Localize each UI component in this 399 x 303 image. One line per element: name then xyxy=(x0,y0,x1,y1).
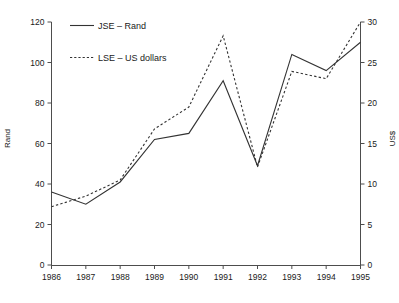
left-axis-tick-label: 40 xyxy=(35,179,45,189)
left-axis-tick-label: 100 xyxy=(30,58,44,68)
x-axis-tick-label: 1994 xyxy=(317,272,336,282)
x-axis-tick-label: 1988 xyxy=(111,272,130,282)
right-axis-title: US$ xyxy=(388,119,397,159)
x-axis-tick-label: 1991 xyxy=(214,272,233,282)
legend-label-lse-us-dollars: LSE – US dollars xyxy=(98,53,167,63)
right-axis-tick-label: 10 xyxy=(368,179,378,189)
right-axis-tick-label: 0 xyxy=(368,260,373,270)
x-axis-tick-label: 1990 xyxy=(179,272,198,282)
left-axis-tick-label: 20 xyxy=(35,220,45,230)
right-axis-tick-label: 30 xyxy=(368,17,378,27)
x-axis-tick-label: 1993 xyxy=(282,272,301,282)
right-axis-tick-label: 25 xyxy=(368,58,378,68)
left-axis-tick-label: 0 xyxy=(40,260,45,270)
right-axis-tick-label: 20 xyxy=(368,98,378,108)
line-chart-plot: 020406080100120 051015202530 19861987198… xyxy=(0,0,399,303)
chart-figure: 020406080100120 051015202530 19861987198… xyxy=(0,0,399,303)
x-axis-tick-label: 1986 xyxy=(42,272,61,282)
left-axis-tick-label: 80 xyxy=(35,98,45,108)
right-axis-tick-label: 5 xyxy=(368,220,373,230)
right-axis-tick-label: 15 xyxy=(368,139,378,149)
x-axis-tick-label: 1992 xyxy=(248,272,267,282)
x-axis-tick-label: 1989 xyxy=(145,272,164,282)
chart-background xyxy=(0,0,399,303)
left-axis-title: Rand xyxy=(3,119,12,159)
left-axis-tick-label: 60 xyxy=(35,139,45,149)
left-axis-tick-label: 120 xyxy=(30,17,44,27)
x-axis-tick-label: 1987 xyxy=(76,272,95,282)
x-axis-tick-label: 1995 xyxy=(351,272,370,282)
legend-label-jse-rand: JSE – Rand xyxy=(98,21,146,31)
